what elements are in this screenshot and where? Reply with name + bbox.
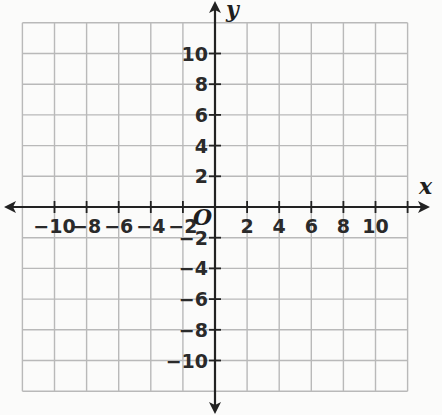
y-tick-label: −4 xyxy=(179,257,208,279)
y-tick-label: −10 xyxy=(166,350,208,372)
y-tick-label: 6 xyxy=(195,104,208,126)
y-tick-label: 2 xyxy=(195,165,208,187)
y-tick-label: −8 xyxy=(179,319,208,341)
x-tick-label: 8 xyxy=(337,215,350,237)
x-tick-label: −6 xyxy=(104,215,133,237)
x-axis-label: x xyxy=(418,173,433,199)
x-tick-label: −8 xyxy=(72,215,101,237)
y-tick-label: −6 xyxy=(179,288,208,310)
y-tick-label: 10 xyxy=(182,43,208,65)
y-tick-label: 8 xyxy=(195,73,208,95)
y-tick-label: 4 xyxy=(195,135,208,157)
x-tick-label: −4 xyxy=(136,215,165,237)
coordinate-plane: −10−8−6−4−2246810−10−8−6−4−2246810 x y O xyxy=(0,0,442,415)
axes xyxy=(4,1,430,414)
x-tick-label: 2 xyxy=(240,215,253,237)
x-tick-label: −10 xyxy=(33,215,75,237)
x-tick-label: 6 xyxy=(305,215,318,237)
x-tick-label: 10 xyxy=(362,215,388,237)
origin-label: O xyxy=(193,204,212,230)
y-tick-label: −2 xyxy=(179,227,208,249)
x-tick-label: 4 xyxy=(273,215,286,237)
y-axis-label: y xyxy=(225,0,241,22)
